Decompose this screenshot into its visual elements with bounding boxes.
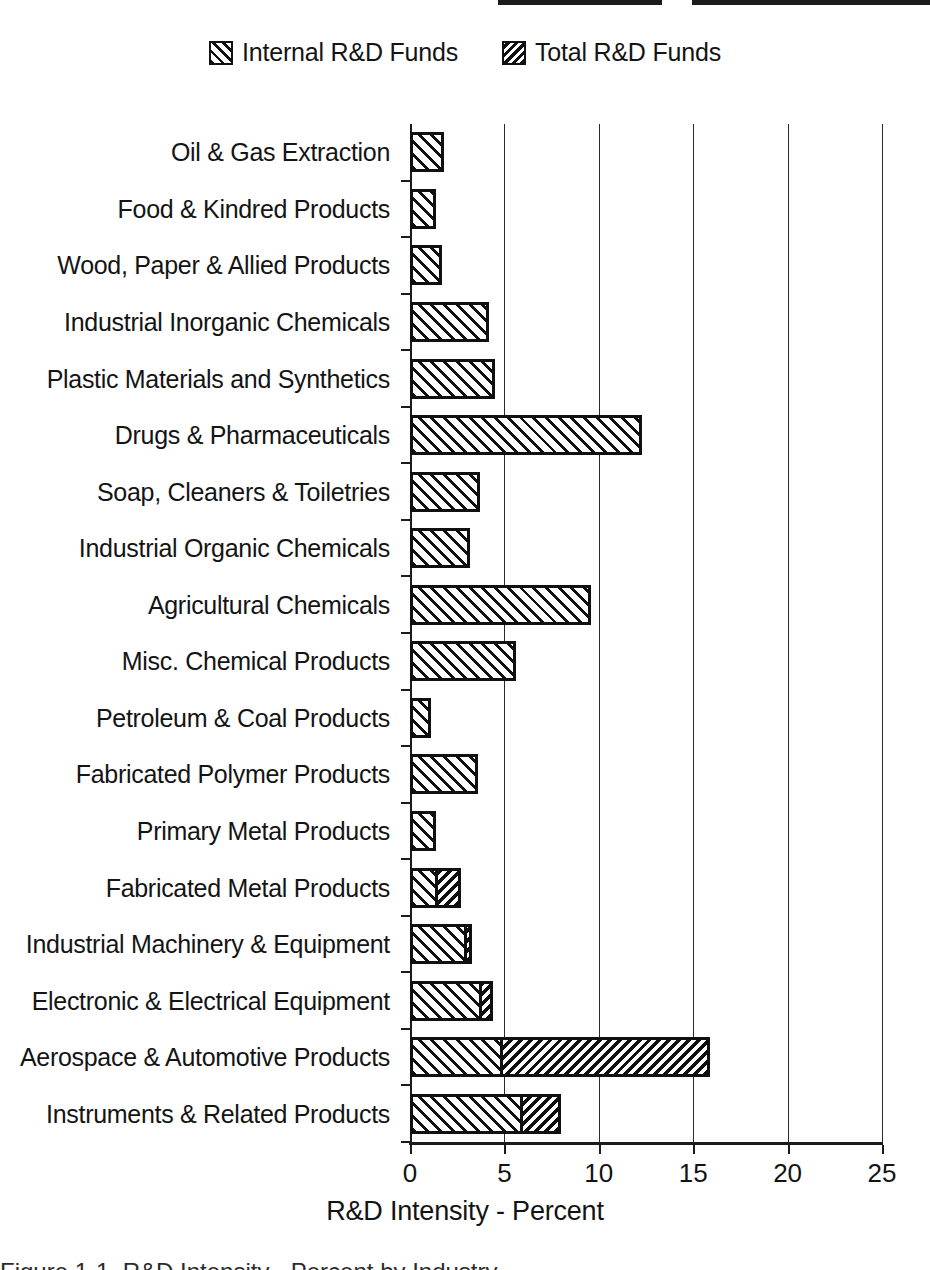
x-axis-line bbox=[409, 1142, 883, 1145]
plot-area: Oil & Gas ExtractionFood & Kindred Produ… bbox=[410, 124, 882, 1142]
bar-row: Industrial Machinery & Equipment bbox=[410, 924, 882, 964]
y-tick bbox=[401, 689, 410, 691]
bar-segment-internal bbox=[410, 415, 642, 455]
x-tick-0 bbox=[410, 1145, 412, 1154]
bar-segment-internal bbox=[410, 132, 444, 172]
y-tick bbox=[401, 462, 410, 464]
legend-swatch-internal-icon bbox=[209, 41, 233, 65]
bar-segment-internal bbox=[410, 754, 478, 794]
bar-row: Agricultural Chemicals bbox=[410, 585, 882, 625]
y-axis-category-label: Industrial Inorganic Chemicals bbox=[64, 307, 390, 336]
y-axis-category-label: Misc. Chemical Products bbox=[122, 647, 390, 676]
x-tick-label-5: 5 bbox=[497, 1158, 511, 1189]
y-axis-category-label: Food & Kindred Products bbox=[118, 194, 390, 223]
bar-segment-internal bbox=[410, 585, 591, 625]
y-axis-category-label: Drugs & Pharmaceuticals bbox=[115, 421, 390, 450]
bar-row: Plastic Materials and Synthetics bbox=[410, 359, 882, 399]
bar-row: Electronic & Electrical Equipment bbox=[410, 981, 882, 1021]
y-axis-category-label: Industrial Machinery & Equipment bbox=[26, 930, 390, 959]
x-tick-5 bbox=[504, 1145, 506, 1154]
bar-row: Oil & Gas Extraction bbox=[410, 132, 882, 172]
x-tick-label-15: 15 bbox=[679, 1158, 708, 1189]
x-tick-15 bbox=[693, 1145, 695, 1154]
legend-label-total: Total R&D Funds bbox=[535, 38, 721, 67]
y-tick bbox=[401, 349, 410, 351]
bar-segment-internal bbox=[410, 245, 442, 285]
bar-row: Fabricated Polymer Products bbox=[410, 754, 882, 794]
bar-segment-internal bbox=[410, 924, 467, 964]
y-axis-category-label: Agricultural Chemicals bbox=[148, 590, 390, 619]
bar-row: Soap, Cleaners & Toiletries bbox=[410, 472, 882, 512]
y-axis-category-label: Electronic & Electrical Equipment bbox=[32, 986, 390, 1015]
bar-segment-internal bbox=[410, 641, 516, 681]
bar-row: Petroleum & Coal Products bbox=[410, 698, 882, 738]
legend-label-internal: Internal R&D Funds bbox=[242, 38, 458, 67]
y-tick bbox=[401, 971, 410, 973]
y-axis-category-label: Soap, Cleaners & Toiletries bbox=[97, 477, 390, 506]
bar-row: Drugs & Pharmaceuticals bbox=[410, 415, 882, 455]
y-axis-category-label: Aerospace & Automotive Products bbox=[20, 1043, 390, 1072]
x-axis-title: R&D Intensity - Percent bbox=[0, 1196, 930, 1227]
bar-row: Food & Kindred Products bbox=[410, 189, 882, 229]
bar-row: Misc. Chemical Products bbox=[410, 641, 882, 681]
y-tick bbox=[401, 1084, 410, 1086]
x-tick-20 bbox=[788, 1145, 790, 1154]
bar-row: Instruments & Related Products bbox=[410, 1094, 882, 1134]
chart-legend: Internal R&D Funds Total R&D Funds bbox=[0, 38, 930, 67]
y-tick bbox=[401, 1028, 410, 1030]
bar-segment-internal bbox=[410, 811, 436, 851]
figure-rd-intensity-chart: Internal R&D Funds Total R&D Funds Oil &… bbox=[0, 0, 930, 1270]
y-tick bbox=[401, 802, 410, 804]
gridline-25 bbox=[882, 124, 883, 1142]
bar-row: Industrial Inorganic Chemicals bbox=[410, 302, 882, 342]
y-tick bbox=[401, 632, 410, 634]
bar-row: Wood, Paper & Allied Products bbox=[410, 245, 882, 285]
x-tick-label-20: 20 bbox=[773, 1158, 802, 1189]
y-axis-category-label: Primary Metal Products bbox=[137, 816, 390, 845]
y-axis-category-label: Plastic Materials and Synthetics bbox=[47, 364, 390, 393]
y-tick bbox=[401, 1141, 410, 1143]
y-tick bbox=[401, 915, 410, 917]
legend-swatch-total-icon bbox=[502, 41, 526, 65]
y-tick bbox=[401, 575, 410, 577]
bar-segment-internal bbox=[410, 189, 436, 229]
bar-segment-internal bbox=[410, 1037, 503, 1077]
y-axis-category-label: Instruments & Related Products bbox=[46, 1099, 390, 1128]
bar-segment-internal bbox=[410, 981, 482, 1021]
bar-segment-internal bbox=[410, 698, 431, 738]
bar-segment-internal bbox=[410, 472, 480, 512]
y-axis-category-label: Wood, Paper & Allied Products bbox=[57, 251, 390, 280]
y-tick bbox=[401, 745, 410, 747]
y-tick bbox=[401, 858, 410, 860]
y-axis-category-label: Industrial Organic Chemicals bbox=[79, 534, 390, 563]
bar-row: Aerospace & Automotive Products bbox=[410, 1037, 882, 1077]
y-axis-category-label: Fabricated Polymer Products bbox=[76, 760, 390, 789]
x-tick-25 bbox=[882, 1145, 884, 1154]
x-tick-label-10: 10 bbox=[584, 1158, 613, 1189]
legend-entry-total: Total R&D Funds bbox=[502, 38, 721, 67]
bar-segment-internal bbox=[410, 1094, 523, 1134]
y-tick bbox=[401, 180, 410, 182]
y-axis-category-label: Oil & Gas Extraction bbox=[171, 138, 390, 167]
bar-row: Fabricated Metal Products bbox=[410, 868, 882, 908]
y-tick bbox=[401, 519, 410, 521]
bar-segment-internal bbox=[410, 359, 495, 399]
bar-row: Primary Metal Products bbox=[410, 811, 882, 851]
y-tick bbox=[401, 293, 410, 295]
y-tick bbox=[401, 236, 410, 238]
x-tick-10 bbox=[599, 1145, 601, 1154]
y-axis-category-label: Fabricated Metal Products bbox=[106, 873, 390, 902]
bar-segment-internal bbox=[410, 528, 470, 568]
x-tick-label-0: 0 bbox=[403, 1158, 417, 1189]
y-axis-category-label: Petroleum & Coal Products bbox=[96, 703, 390, 732]
x-tick-label-25: 25 bbox=[868, 1158, 897, 1189]
bar-row: Industrial Organic Chemicals bbox=[410, 528, 882, 568]
figure-caption: Figure 1-1. R&D Intensity - Percent by I… bbox=[0, 1258, 930, 1270]
y-tick bbox=[401, 406, 410, 408]
top-cropped-rule bbox=[498, 0, 930, 5]
bar-segment-internal bbox=[410, 302, 489, 342]
bar-segment-internal bbox=[410, 868, 438, 908]
legend-entry-internal: Internal R&D Funds bbox=[209, 38, 458, 67]
